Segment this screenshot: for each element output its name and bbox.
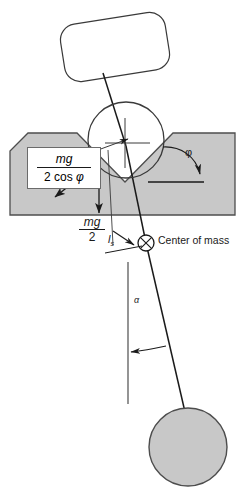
normal-force-formula-box: mg 2 cos φ bbox=[27, 147, 101, 189]
weight-half-denominator: 2 bbox=[75, 231, 109, 243]
weight-half-numerator: mg bbox=[75, 216, 109, 228]
top-body-rounded-rectangle bbox=[58, 10, 172, 84]
rod-length-subscript: s bbox=[110, 240, 114, 247]
formula-denominator: 2 cos φ bbox=[44, 168, 84, 184]
formula-numerator: mg bbox=[56, 152, 73, 167]
weight-half-label: mg 2 bbox=[75, 216, 109, 243]
figure-canvas: mg 2 cos φ mg 2 ls Center of mass φ α bbox=[0, 0, 246, 489]
pendulum-bob bbox=[149, 408, 227, 486]
swing-angle-label: α bbox=[134, 296, 139, 305]
normal-force-fraction: mg 2 cos φ bbox=[28, 148, 100, 188]
swing-angle-arc bbox=[131, 346, 166, 352]
rod-length-label: ls bbox=[108, 234, 114, 247]
groove-angle-label: φ bbox=[185, 147, 192, 158]
formula-denominator-prefix: 2 cos bbox=[44, 170, 76, 184]
center-of-mass-marker bbox=[138, 235, 154, 251]
center-of-mass-label: Center of mass bbox=[158, 235, 229, 246]
formula-denominator-symbol: φ bbox=[76, 170, 84, 184]
